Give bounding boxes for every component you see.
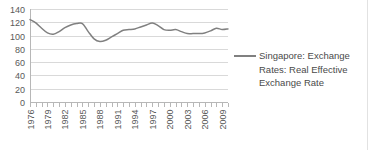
y-tick-label: 100 [10, 32, 25, 42]
y-axis-tick-labels: 020406080100120140 [10, 5, 25, 108]
y-tick-label: 0 [20, 98, 25, 108]
x-axis-tickmarks [31, 103, 229, 107]
axis-lines [30, 9, 228, 103]
x-tick-label: 1991 [113, 110, 123, 130]
y-tick-label: 60 [15, 58, 25, 68]
x-tick-label: 1979 [43, 110, 53, 130]
x-tick-label: 1985 [78, 110, 88, 130]
gridlines [30, 10, 228, 90]
line-chart-svg: 020406080100120140 197619791982198519881… [0, 0, 232, 150]
x-tick-label: 1988 [95, 110, 105, 130]
x-tick-label: 2006 [200, 110, 210, 130]
legend-color-swatch [234, 55, 256, 57]
y-tick-label: 40 [15, 71, 25, 81]
y-tick-label: 80 [15, 45, 25, 55]
x-tick-label: 2009 [218, 110, 228, 130]
x-tick-label: 2003 [183, 110, 193, 130]
x-tick-label: 1976 [26, 110, 36, 130]
x-axis-tick-labels: 1976197919821985198819911994199720002003… [26, 110, 228, 130]
legend: Singapore: Exchange Rates: Real Effectiv… [234, 49, 366, 90]
x-tick-label: 1994 [130, 110, 140, 130]
x-tick-label: 1997 [148, 110, 158, 130]
plot-area: 020406080100120140 197619791982198519881… [0, 0, 232, 150]
y-tick-label: 120 [10, 18, 25, 28]
y-tick-label: 20 [15, 85, 25, 95]
y-tick-label: 140 [10, 5, 25, 15]
chart-container: 020406080100120140 197619791982198519881… [0, 0, 368, 150]
x-tick-label: 1982 [60, 110, 70, 130]
legend-label: Singapore: Exchange Rates: Real Effectiv… [259, 49, 363, 90]
x-tick-label: 2000 [165, 110, 175, 130]
